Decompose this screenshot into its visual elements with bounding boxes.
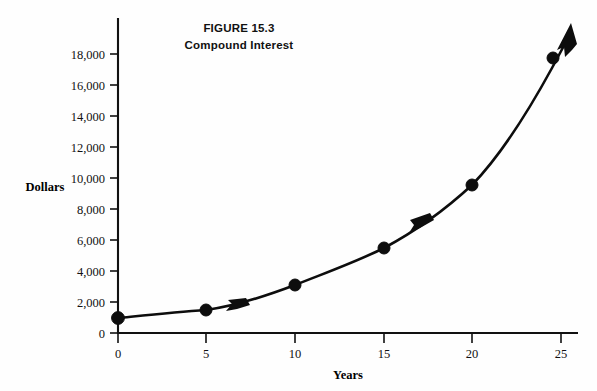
data-point-marker bbox=[466, 179, 478, 191]
x-tick-label-0: 0 bbox=[115, 347, 121, 361]
x-tick-label-25: 25 bbox=[555, 347, 568, 361]
x-axis-title: Years bbox=[333, 368, 363, 382]
y-tick-label-16000: 16,000 bbox=[71, 79, 105, 93]
y-tick-label-4000: 4,000 bbox=[77, 265, 105, 279]
x-tick-label-20: 20 bbox=[466, 347, 479, 361]
data-point-marker bbox=[289, 279, 301, 291]
data-point-marker bbox=[547, 52, 559, 64]
y-tick-label-18000: 18,000 bbox=[71, 48, 105, 62]
figure-title-line1: FIGURE 15.3 bbox=[203, 22, 274, 34]
compound-interest-curve bbox=[118, 40, 567, 318]
data-point-marker bbox=[200, 304, 212, 316]
y-axis-title: Dollars bbox=[26, 180, 65, 194]
y-tick-label-12000: 12,000 bbox=[71, 141, 105, 155]
data-point-marker bbox=[112, 312, 125, 325]
y-tick-label-8000: 8,000 bbox=[77, 203, 105, 217]
y-tick-label-6000: 6,000 bbox=[77, 234, 105, 248]
curve-direction-arrow-2 bbox=[409, 213, 434, 233]
figure-title-line2: Compound Interest bbox=[185, 39, 294, 51]
figure-page: FIGURE 15.3 Compound Interest 0 2,000 4,… bbox=[0, 0, 597, 391]
y-tick-label-10000: 10,000 bbox=[71, 172, 105, 186]
x-tick-label-15: 15 bbox=[378, 347, 391, 361]
y-tick-label-14000: 14,000 bbox=[71, 110, 105, 124]
y-tick-label-0: 0 bbox=[99, 327, 105, 341]
x-tick-label-10: 10 bbox=[289, 347, 302, 361]
data-point-marker bbox=[378, 242, 390, 254]
x-tick-label-5: 5 bbox=[203, 347, 209, 361]
y-tick-label-2000: 2,000 bbox=[77, 296, 105, 310]
compound-interest-chart: FIGURE 15.3 Compound Interest 0 2,000 4,… bbox=[0, 0, 597, 391]
